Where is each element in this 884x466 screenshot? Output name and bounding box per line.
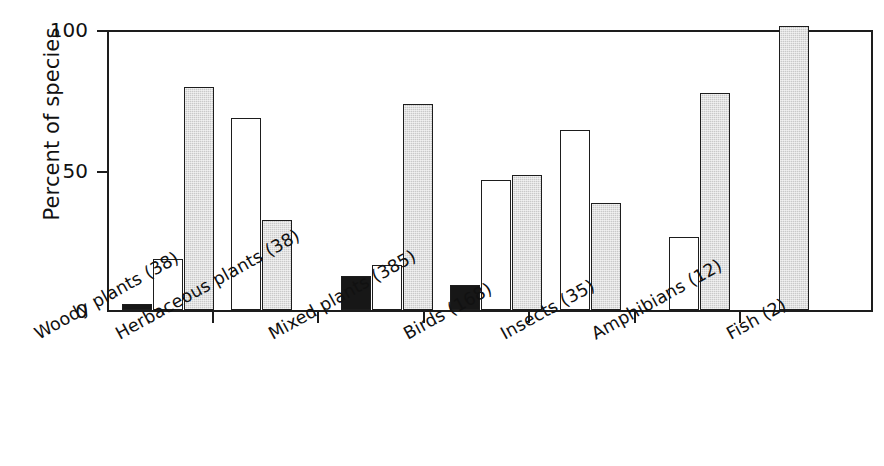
bar-white bbox=[231, 118, 261, 310]
bar-group bbox=[547, 32, 656, 310]
x-tick-mark-0 bbox=[212, 312, 214, 323]
bar-group bbox=[766, 32, 875, 310]
bar-gray bbox=[512, 175, 542, 310]
y-tick-label-100: 100 bbox=[18, 18, 88, 42]
bar-gray bbox=[779, 26, 809, 310]
bar-chart-figure: Percent of species 100 50 0 Woody plants… bbox=[0, 0, 884, 466]
bar-gray bbox=[403, 104, 433, 310]
bar-group bbox=[437, 32, 546, 310]
y-tick-label-50: 50 bbox=[18, 159, 88, 183]
